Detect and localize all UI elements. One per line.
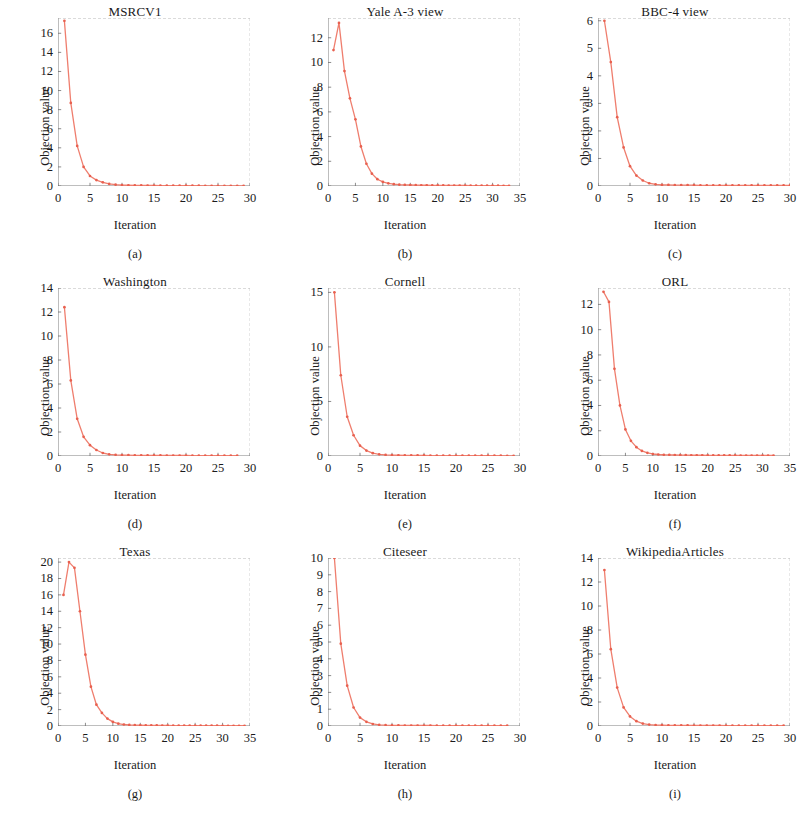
y-tick-label: 3: [317, 669, 323, 682]
data-point-marker: [338, 22, 341, 25]
data-point-marker: [469, 184, 472, 186]
y-tick-label: 0: [47, 180, 53, 193]
data-point-marker: [352, 706, 355, 709]
data-point-marker: [641, 179, 644, 182]
plot-area: Objection value0246810121416051015202530: [58, 18, 250, 186]
y-tick-label: 14: [41, 282, 54, 295]
x-tick-label: 15: [404, 192, 417, 205]
y-tick-label: 8: [317, 81, 323, 94]
data-point-marker: [629, 715, 632, 718]
data-point-marker: [512, 454, 515, 456]
data-point-marker: [165, 184, 168, 186]
data-point-marker: [493, 454, 496, 456]
data-point-marker: [673, 724, 676, 726]
x-tick-label: 5: [87, 192, 93, 205]
series-line: [63, 562, 244, 726]
x-tick-label: 15: [148, 192, 161, 205]
data-point-marker: [416, 454, 419, 456]
chart-panel-b: Yale A-3 viewObjection value024681012051…: [270, 0, 540, 270]
y-tick-label: 4: [47, 142, 53, 155]
data-point-marker: [619, 404, 622, 407]
data-point-marker: [95, 703, 98, 706]
data-point-marker: [188, 724, 191, 726]
data-point-marker: [455, 454, 458, 456]
x-tick-label: 35: [244, 732, 257, 745]
data-point-marker: [191, 454, 194, 456]
data-point-marker: [343, 70, 346, 73]
panel-caption: (h): [270, 787, 540, 802]
data-point-marker: [487, 724, 490, 726]
data-point-marker: [508, 184, 511, 186]
data-point-marker: [506, 724, 509, 726]
data-point-marker: [95, 179, 98, 182]
data-point-marker: [717, 454, 720, 456]
y-tick-label: 20: [41, 556, 54, 569]
x-tick-label: 30: [784, 732, 797, 745]
data-point-marker: [480, 184, 483, 186]
data-point-marker: [690, 454, 693, 456]
data-point-marker: [616, 116, 619, 119]
x-tick-label: 20: [701, 462, 714, 475]
data-point-marker: [728, 454, 731, 456]
data-point-marker: [776, 724, 779, 726]
data-point-marker: [216, 724, 219, 726]
data-point-marker: [497, 184, 500, 186]
x-tick-label: 25: [482, 462, 495, 475]
data-point-marker: [442, 724, 445, 726]
data-point-marker: [657, 453, 660, 456]
data-point-marker: [622, 146, 625, 149]
data-point-marker: [745, 454, 748, 456]
data-point-marker: [423, 724, 426, 726]
x-tick-label: 0: [595, 192, 601, 205]
y-tick-label: 14: [41, 605, 54, 618]
data-point-marker: [429, 454, 432, 456]
plot-canvas: [58, 288, 250, 456]
data-point-marker: [641, 450, 644, 453]
data-point-marker: [63, 20, 66, 23]
data-point-marker: [725, 184, 728, 186]
x-tick-label: 35: [784, 462, 797, 475]
data-point-marker: [221, 724, 224, 726]
data-point-marker: [146, 184, 149, 186]
x-tick-label: 10: [107, 732, 120, 745]
y-tick-label: 0: [317, 180, 323, 193]
x-tick-label: 5: [357, 462, 363, 475]
data-point-marker: [392, 183, 395, 186]
data-point-marker: [114, 183, 117, 186]
x-tick-label: 10: [386, 462, 399, 475]
data-point-marker: [776, 184, 779, 186]
x-tick-label: 20: [720, 732, 733, 745]
data-point-marker: [616, 686, 619, 689]
data-point-marker: [133, 184, 136, 186]
chart-panel-a: MSRCV1Objection value0246810121416051015…: [0, 0, 270, 270]
y-tick-label: 10: [41, 330, 54, 343]
data-point-marker: [133, 454, 136, 456]
data-point-marker: [332, 49, 335, 52]
data-point-marker: [183, 724, 186, 726]
data-point-marker: [767, 454, 770, 456]
data-point-marker: [397, 454, 400, 456]
data-point-marker: [491, 184, 494, 186]
data-point-marker: [185, 184, 188, 186]
data-point-marker: [442, 184, 445, 186]
data-point-marker: [62, 594, 65, 597]
data-point-marker: [635, 446, 638, 449]
y-tick-label: 12: [311, 32, 324, 45]
x-tick-label: 10: [116, 192, 129, 205]
y-tick-label: 6: [317, 106, 323, 119]
y-tick-label: 4: [317, 653, 323, 666]
data-point-marker: [416, 724, 419, 726]
x-axis-label: Iteration: [0, 758, 270, 773]
chart-panel-e: CornellObjection value051015051015202530…: [270, 270, 540, 540]
y-tick-label: 14: [41, 46, 54, 59]
y-tick-label: 2: [317, 155, 323, 168]
data-point-marker: [410, 724, 413, 726]
data-point-marker: [403, 184, 406, 186]
y-tick-label: 1: [317, 703, 323, 716]
data-point-marker: [630, 439, 633, 442]
x-tick-label: 20: [450, 732, 463, 745]
data-point-marker: [499, 724, 502, 726]
data-point-marker: [194, 724, 197, 726]
data-point-marker: [680, 724, 683, 726]
data-point-marker: [166, 724, 169, 726]
